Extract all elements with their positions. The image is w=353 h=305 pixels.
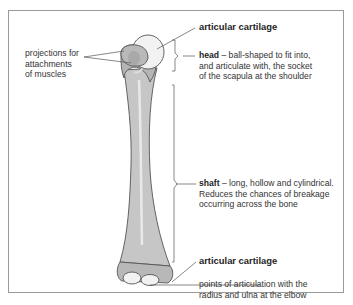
label-articulation-points: points of articulation with the radius a… bbox=[199, 279, 307, 300]
label-top-articular-cartilage: articular cartilage bbox=[199, 22, 277, 33]
label-bottom-articular-cartilage: articular cartilage bbox=[199, 256, 277, 267]
capitulum-cartilage bbox=[141, 275, 159, 286]
humerus-bone-illustration bbox=[0, 0, 353, 305]
shaft-term: shaft bbox=[199, 178, 220, 188]
bone-shaft bbox=[120, 68, 170, 266]
trochlea-cartilage bbox=[123, 272, 141, 284]
head-term: head bbox=[199, 50, 219, 60]
label-head: head – ball-shaped to fit into, and arti… bbox=[199, 50, 312, 82]
label-projections: projections for attachments of muscles bbox=[25, 48, 79, 80]
label-shaft: shaft – long, hollow and cylindrical. Re… bbox=[199, 178, 334, 210]
